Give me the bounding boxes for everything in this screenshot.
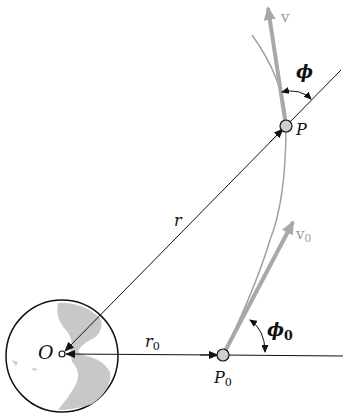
label-p: P [296,122,307,138]
baseline-extension [223,355,343,356]
label-o: O [38,343,54,362]
trajectory-curve [223,35,286,355]
phi-angle-arc [282,91,311,99]
label-v: v [281,10,289,25]
label-phi: ϕ [296,63,313,81]
phi0-angle-arc [250,320,265,352]
label-r0: r0 [145,334,160,353]
label-p0: P0 [214,370,232,389]
point-p [280,120,292,132]
point-p0 [217,349,229,361]
point-o [59,351,65,357]
label-phi0: ϕ0 [267,321,293,342]
label-v0: v0 [296,227,311,244]
r-vector [65,126,286,351]
label-r: r [174,213,182,229]
radial-extension [286,70,341,126]
